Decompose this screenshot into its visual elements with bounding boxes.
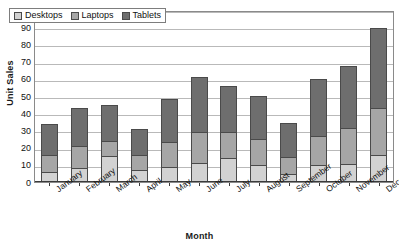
bar-segment-laptops[interactable]	[220, 132, 237, 158]
bar-segment-laptops[interactable]	[101, 141, 118, 156]
plot-area	[34, 11, 394, 183]
bar-segment-laptops[interactable]	[41, 155, 58, 172]
x-tickmark	[349, 183, 350, 186]
bar-group-august[interactable]	[250, 96, 267, 182]
x-tickmark	[169, 183, 170, 186]
bar-group-december[interactable]	[370, 28, 387, 182]
x-axis-tick-october: October	[324, 186, 330, 194]
y-axis-tick-90: 90	[5, 24, 31, 33]
legend-label: Tablets	[133, 11, 162, 20]
bar-segment-laptops[interactable]	[250, 139, 267, 165]
x-tickmark	[289, 183, 290, 186]
x-axis-tick-labels: JanuaryFebruaryMarchAprilMayJuneJulyAugu…	[34, 184, 394, 230]
bar-segment-tablets[interactable]	[161, 99, 178, 142]
x-axis-tick-september: September	[294, 186, 300, 194]
y-axis-tick-80: 80	[5, 41, 31, 50]
y-axis-tick-0: 0	[5, 179, 31, 188]
bar-segment-desktops[interactable]	[220, 158, 237, 182]
x-axis-tick-march: March	[114, 186, 120, 194]
bar-segment-laptops[interactable]	[71, 146, 88, 168]
bar-segment-laptops[interactable]	[340, 128, 357, 164]
bar-group-november[interactable]	[340, 66, 357, 182]
bar-segment-tablets[interactable]	[41, 124, 58, 155]
x-tickmark	[319, 183, 320, 186]
bar-segment-tablets[interactable]	[191, 77, 208, 132]
legend-item-tablets[interactable]: Tablets	[122, 11, 162, 20]
bar-segment-tablets[interactable]	[310, 79, 327, 136]
y-axis-tick-10: 10	[5, 161, 31, 170]
bar-segment-desktops[interactable]	[191, 163, 208, 182]
x-tickmark	[139, 183, 140, 186]
bar-segment-laptops[interactable]	[191, 132, 208, 163]
x-axis-tick-november: November	[354, 186, 360, 194]
bars-container	[35, 12, 393, 182]
x-tickmark	[379, 183, 380, 186]
y-axis-tick-70: 70	[5, 58, 31, 67]
x-axis-tick-july: July	[234, 186, 240, 194]
bar-group-january[interactable]	[41, 124, 58, 182]
legend-swatch-icon	[122, 12, 130, 20]
bar-segment-tablets[interactable]	[280, 123, 297, 157]
bar-segment-tablets[interactable]	[131, 129, 148, 155]
legend-label: Laptops	[82, 11, 114, 20]
x-tickmark	[109, 183, 110, 186]
x-axis-tick-february: February	[84, 186, 90, 194]
bar-segment-tablets[interactable]	[370, 28, 387, 108]
x-axis-tick-january: January	[54, 186, 60, 194]
y-axis-tick-50: 50	[5, 93, 31, 102]
legend-item-desktops[interactable]: Desktops	[14, 11, 63, 20]
x-axis-title: Month	[0, 231, 399, 241]
stacked-bar-chart: Unit Sales 1009080706050403020100 Deskto…	[0, 0, 399, 248]
y-axis-tick-30: 30	[5, 127, 31, 136]
legend-label: Desktops	[25, 11, 63, 20]
x-tickmark	[229, 183, 230, 186]
bar-segment-tablets[interactable]	[220, 86, 237, 132]
x-tickmark	[259, 183, 260, 186]
bar-segment-desktops[interactable]	[250, 165, 267, 182]
x-tickmark	[199, 183, 200, 186]
legend-swatch-icon	[71, 12, 79, 20]
legend-item-laptops[interactable]: Laptops	[71, 11, 114, 20]
bar-segment-tablets[interactable]	[340, 66, 357, 128]
x-axis-tick-june: June	[204, 186, 210, 194]
bar-segment-tablets[interactable]	[101, 105, 118, 141]
y-axis-tick-20: 20	[5, 144, 31, 153]
x-axis-tick-december: December	[384, 186, 390, 194]
y-axis-tick-40: 40	[5, 110, 31, 119]
x-axis-tick-april: April	[144, 186, 150, 194]
bar-group-july[interactable]	[220, 86, 237, 182]
bar-segment-laptops[interactable]	[310, 136, 327, 165]
x-axis-tick-may: May	[174, 186, 180, 194]
bar-segment-tablets[interactable]	[250, 96, 267, 139]
bar-segment-tablets[interactable]	[71, 108, 88, 146]
chart-legend: DesktopsLaptopsTablets	[9, 8, 166, 23]
bar-group-may[interactable]	[161, 99, 178, 182]
bar-group-june[interactable]	[191, 77, 208, 182]
bar-segment-laptops[interactable]	[131, 155, 148, 170]
bar-segment-desktops[interactable]	[161, 167, 178, 182]
legend-swatch-icon	[14, 12, 22, 20]
bar-segment-laptops[interactable]	[370, 108, 387, 155]
bar-segment-laptops[interactable]	[161, 142, 178, 166]
x-axis-tick-august: August	[264, 186, 270, 194]
y-axis-tick-labels: 1009080706050403020100	[0, 0, 31, 248]
x-tickmark	[49, 183, 50, 186]
x-tickmark	[79, 183, 80, 186]
y-axis-tick-60: 60	[5, 75, 31, 84]
